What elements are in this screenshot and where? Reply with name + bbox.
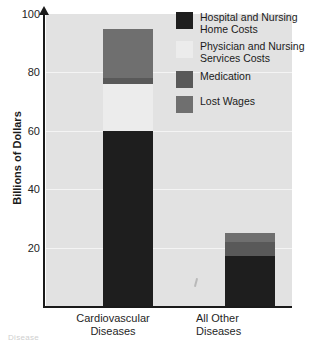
y-axis-arrow-icon <box>39 6 49 15</box>
y-tick-label-80: 80 <box>2 66 40 78</box>
legend-item-lost-wages[interactable]: Lost Wages <box>176 95 318 113</box>
figure-caption-remnant: Disease <box>8 333 39 342</box>
x-axis-label-all-other-diseases: All Other Diseases <box>196 312 286 338</box>
bar-segment-lost-wages <box>225 233 275 242</box>
bar-segment-hospital-and-nursing-home-costs <box>225 256 275 306</box>
bar-segment-medication <box>103 78 153 84</box>
y-axis-title: Billions of Dollars <box>11 98 23 218</box>
bar-segment-lost-wages <box>103 29 153 79</box>
legend: Hospital and Nursing Home Costs Physicia… <box>176 11 318 118</box>
y-tick-label-20: 20 <box>2 242 40 254</box>
legend-swatch-icon <box>176 71 193 88</box>
legend-label: Physician and Nursing Services Costs <box>200 40 304 64</box>
gridline-40 <box>46 189 292 190</box>
legend-swatch-icon <box>176 41 193 58</box>
legend-swatch-icon <box>176 96 193 113</box>
legend-label: Hospital and Nursing Home Costs <box>200 11 297 35</box>
legend-item-hospital-and-nursing-home-costs[interactable]: Hospital and Nursing Home Costs <box>176 11 318 35</box>
gridline-60 <box>46 131 292 132</box>
bar-segment-medication <box>225 242 275 257</box>
x-axis-line <box>43 306 292 308</box>
legend-item-medication[interactable]: Medication <box>176 70 318 88</box>
legend-swatch-icon <box>176 12 193 29</box>
bar-all-other-diseases[interactable] <box>225 233 275 306</box>
bar-segment-physician-and-nursing-services-costs <box>103 84 153 131</box>
x-axis-label-cardiovascular-diseases: Cardiovascular Diseases <box>58 312 168 338</box>
bar-segment-hospital-and-nursing-home-costs <box>103 131 153 306</box>
legend-label: Medication <box>200 70 251 82</box>
legend-label: Lost Wages <box>200 95 255 107</box>
figure-container: 100 80 60 40 20 Billions of Dollars Card… <box>0 0 321 346</box>
y-tick-label-100: 100 <box>2 8 40 20</box>
legend-item-physician-and-nursing-services-costs[interactable]: Physician and Nursing Services Costs <box>176 40 318 64</box>
y-axis-line <box>43 14 45 307</box>
bar-cardiovascular-diseases[interactable] <box>103 29 153 306</box>
